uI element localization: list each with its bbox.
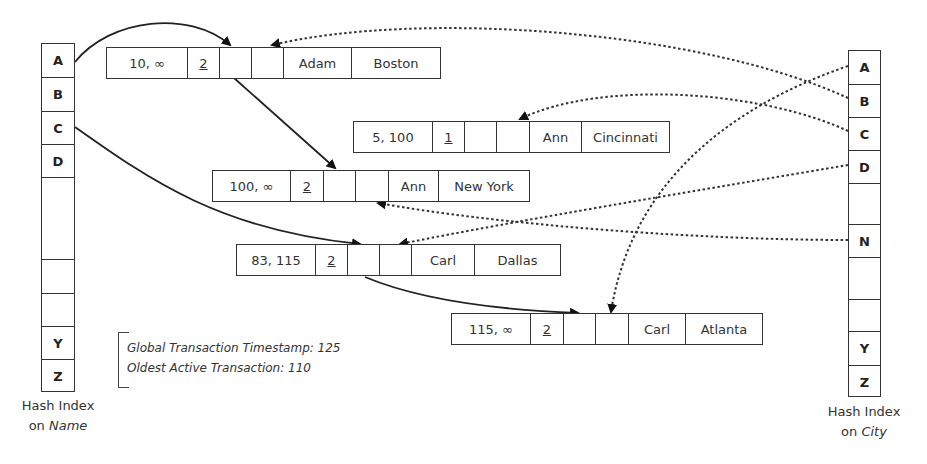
timestamp-cell: 5, 100 bbox=[354, 122, 432, 152]
transaction-note: Global Transaction Timestamp: 125 Oldest… bbox=[118, 332, 319, 388]
name-index-cell-b: B bbox=[42, 77, 74, 111]
label-line2: on City bbox=[819, 422, 909, 442]
city-cell: Boston bbox=[351, 48, 440, 78]
name-index-cell-z: Z bbox=[42, 359, 74, 393]
city-index-cell-c: C bbox=[849, 117, 880, 150]
city-pointer-cell bbox=[496, 122, 529, 152]
name-pointer-cell bbox=[219, 48, 251, 78]
arrow-adam-to-ann-ny bbox=[234, 78, 335, 168]
arrow-cityN-to-ny bbox=[378, 203, 848, 240]
name-cell: Carl bbox=[411, 245, 474, 275]
timestamp-cell: 10, ∞ bbox=[107, 48, 187, 78]
city-cell: Cincinnati bbox=[581, 122, 669, 152]
version-row-carl-dallas: 83, 115 2 Carl Dallas bbox=[236, 244, 561, 276]
timestamp-cell: 100, ∞ bbox=[213, 171, 290, 201]
city-index-cell-d: D bbox=[849, 150, 880, 183]
city-index-cell-a: A bbox=[849, 51, 880, 84]
txn-cell: 1 bbox=[432, 122, 464, 152]
city-cell: New York bbox=[438, 171, 529, 201]
version-row-adam-boston: 10, ∞ 2 Adam Boston bbox=[106, 47, 441, 79]
name-cell: Adam bbox=[283, 48, 351, 78]
txn-cell: 2 bbox=[187, 48, 219, 78]
hash-index-city: A B C D N Y Z bbox=[848, 50, 881, 397]
name-index-cell-empty bbox=[42, 177, 74, 259]
version-row-ann-newyork: 100, ∞ 2 Ann New York bbox=[212, 170, 530, 202]
name-index-cell-empty bbox=[42, 293, 74, 326]
oldest-active-text: Oldest Active Transaction: 110 bbox=[127, 361, 311, 375]
version-row-carl-atlanta: 115, ∞ 2 Carl Atlanta bbox=[451, 313, 763, 345]
name-cell: Ann bbox=[529, 122, 581, 152]
city-pointer-cell bbox=[595, 314, 628, 344]
label-line2: on Name bbox=[13, 416, 103, 436]
name-index-cell-d: D bbox=[42, 144, 74, 177]
city-index-label: Hash Index on City bbox=[819, 402, 909, 442]
city-index-cell-empty bbox=[849, 299, 880, 331]
arrow-dallas-to-atlanta bbox=[365, 277, 578, 313]
name-cell: Ann bbox=[388, 171, 438, 201]
txn-cell: 2 bbox=[315, 245, 347, 275]
name-cell: Carl bbox=[628, 314, 685, 344]
name-pointer-cell bbox=[464, 122, 496, 152]
name-pointer-cell bbox=[323, 171, 355, 201]
city-index-cell-n: N bbox=[849, 224, 880, 257]
name-pointer-cell bbox=[563, 314, 595, 344]
city-pointer-cell bbox=[251, 48, 283, 78]
city-cell: Dallas bbox=[474, 245, 560, 275]
timestamp-cell: 115, ∞ bbox=[452, 314, 530, 344]
label-line1: Hash Index bbox=[819, 402, 909, 422]
name-index-cell-y: Y bbox=[42, 326, 74, 359]
arrow-cityA-to-atlanta bbox=[611, 66, 848, 312]
city-index-cell-z: Z bbox=[849, 365, 880, 398]
city-pointer-cell bbox=[379, 245, 411, 275]
name-index-label: Hash Index on Name bbox=[13, 396, 103, 436]
label-line1: Hash Index bbox=[13, 396, 103, 416]
name-index-cell-empty bbox=[42, 259, 74, 293]
city-index-cell-b: B bbox=[849, 84, 880, 117]
name-pointer-cell bbox=[347, 245, 379, 275]
city-index-cell-empty bbox=[849, 183, 880, 224]
city-cell: Atlanta bbox=[685, 314, 762, 344]
timestamp-cell: 83, 115 bbox=[237, 245, 315, 275]
name-index-cell-a: A bbox=[42, 44, 74, 77]
txn-cell: 2 bbox=[530, 314, 563, 344]
name-index-cell-c: C bbox=[42, 111, 74, 144]
version-row-ann-cincinnati: 5, 100 1 Ann Cincinnati bbox=[353, 121, 670, 153]
city-pointer-cell bbox=[355, 171, 388, 201]
global-timestamp-text: Global Transaction Timestamp: 125 bbox=[127, 341, 341, 355]
hash-index-name: A B C D Y Z bbox=[41, 43, 75, 392]
city-index-cell-y: Y bbox=[849, 331, 880, 365]
city-index-cell-empty bbox=[849, 257, 880, 299]
txn-cell: 2 bbox=[290, 171, 323, 201]
